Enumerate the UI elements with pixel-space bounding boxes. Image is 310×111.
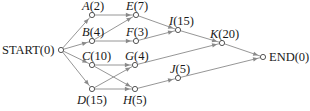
arrowhead-icon	[212, 43, 217, 47]
network-diagram: START(0)A(2)B(4)C(10)D(15)E(7)F(3)G(4)H(…	[0, 0, 310, 111]
node-h	[132, 86, 137, 91]
node-a	[89, 12, 94, 17]
node-label-g: G(4)	[125, 49, 149, 63]
node-label-i: I(15)	[168, 14, 194, 28]
edge-c-g	[95, 63, 132, 67]
edge-j-end	[181, 57, 260, 77]
node-label-j: J(5)	[170, 62, 190, 76]
node-label-a: A(2)	[81, 0, 104, 13]
node-label-c: C(10)	[82, 49, 111, 63]
node-e	[133, 12, 138, 17]
node-label-k: K(20)	[209, 27, 239, 41]
node-start	[58, 47, 63, 52]
edge-a-e	[95, 13, 133, 17]
node-label-b: B(4)	[82, 25, 104, 39]
edge-d-h	[95, 87, 132, 91]
node-i	[175, 27, 180, 32]
node-k	[219, 40, 224, 45]
arrowhead-icon	[126, 13, 131, 17]
edge-b-f	[95, 39, 133, 43]
node-label-start: START(0)	[2, 43, 54, 57]
node-g	[132, 62, 137, 67]
arrowhead-icon	[125, 87, 130, 91]
node-label-e: E(7)	[125, 0, 148, 13]
edge-h-j	[138, 78, 175, 88]
node-end	[260, 54, 265, 59]
arrowhead-icon	[125, 63, 130, 67]
arrowhead-icon	[82, 42, 87, 46]
node-label-end: END(0)	[269, 50, 309, 64]
node-b	[89, 38, 94, 43]
edge-k-end	[224, 44, 260, 56]
arrowhead-icon	[126, 39, 131, 43]
labels-layer: START(0)A(2)B(4)C(10)D(15)E(7)F(3)G(4)H(…	[2, 0, 309, 107]
diagram-canvas: START(0)A(2)B(4)C(10)D(15)E(7)F(3)G(4)H(…	[0, 0, 310, 111]
node-label-d: D(15)	[76, 93, 107, 107]
arrowhead-icon	[253, 57, 258, 61]
node-c	[89, 62, 94, 67]
node-d	[89, 86, 94, 91]
node-label-h: H(5)	[122, 93, 147, 107]
node-j	[175, 75, 180, 80]
arrowhead-icon	[253, 52, 258, 56]
node-label-f: F(3)	[125, 25, 148, 39]
node-f	[133, 38, 138, 43]
